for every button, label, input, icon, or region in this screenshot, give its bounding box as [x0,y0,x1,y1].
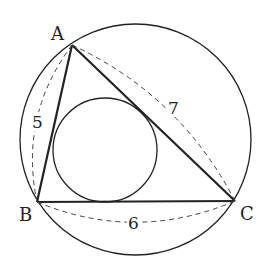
geometry-figure: A B C 5 7 6 [0,0,275,268]
side-bc [37,201,235,202]
length-label-bc: 6 [128,213,139,233]
side-ac [72,45,235,201]
figure-canvas: A B C 5 7 6 [0,0,275,268]
vertex-label-b: B [19,204,32,225]
vertex-label-a: A [50,23,65,44]
length-label-ab: 5 [32,112,43,132]
length-label-ac: 7 [168,98,179,118]
incircle [53,98,157,202]
vertex-label-c: C [240,203,254,224]
